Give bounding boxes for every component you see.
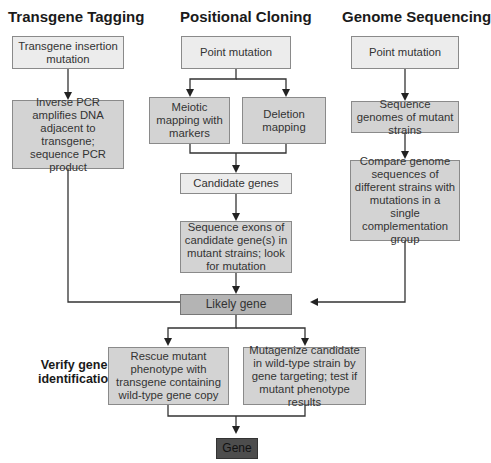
box-likely-gene: Likely gene bbox=[180, 294, 292, 315]
box-mutagenize-candidate: Mutagenize candidate in wild-type strain… bbox=[243, 347, 366, 405]
box-rescue-phenotype: Rescue mutant phenotype with transgene c… bbox=[108, 347, 229, 405]
box-inverse-pcr: Inverse PCR amplifies DNA adjacent to tr… bbox=[12, 100, 124, 169]
box-sequence-genomes: Sequence genomes of mutant strains bbox=[351, 101, 459, 133]
box-meiotic-mapping: Meiotic mapping with markers bbox=[149, 97, 230, 144]
box-compare-genomes: Compare genome sequences of different st… bbox=[350, 160, 460, 241]
box-candidate-genes: Candidate genes bbox=[180, 173, 292, 194]
heading-positional-cloning: Positional Cloning bbox=[180, 8, 312, 25]
heading-transgene-tagging: Transgene Tagging bbox=[8, 8, 144, 25]
box-transgene-insertion: Transgene insertion mutation bbox=[12, 36, 124, 69]
box-sequence-exons: Sequence exons of candidate gene(s) in m… bbox=[180, 221, 292, 273]
box-gene: Gene bbox=[216, 438, 258, 459]
box-deletion-mapping: Deletion mapping bbox=[242, 97, 326, 144]
box-point-mutation-genome: Point mutation bbox=[351, 36, 459, 69]
heading-genome-sequencing: Genome Sequencing bbox=[342, 8, 491, 25]
box-point-mutation-positional: Point mutation bbox=[181, 36, 291, 69]
verify-gene-identification-label: Verify gene identification bbox=[38, 358, 110, 386]
